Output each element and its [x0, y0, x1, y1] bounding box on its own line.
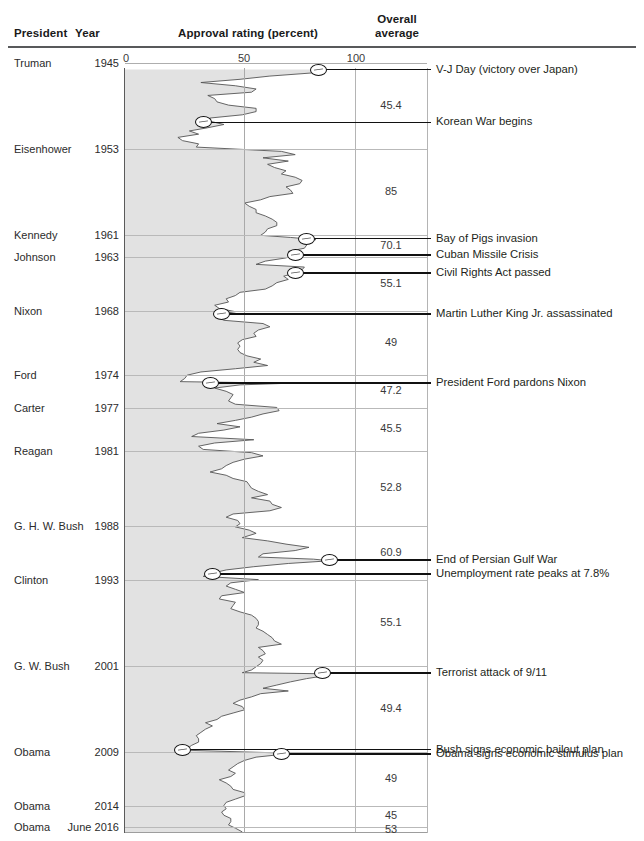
row-separator — [125, 63, 427, 64]
year-label: 1981 — [44, 445, 119, 457]
column-header-approval-rating: Approval rating (percent) — [178, 27, 318, 39]
average-column-right-border — [427, 68, 428, 833]
column-header-overall-average: Overall average — [366, 12, 428, 40]
overall-average-line1: Overall — [377, 13, 417, 25]
overall-average-value: 49.4 — [355, 702, 427, 714]
annotation-marker[interactable] — [287, 249, 304, 261]
year-label: 1945 — [44, 57, 119, 69]
overall-average-value: 47.2 — [355, 384, 427, 396]
annotation-leader-line — [295, 254, 431, 256]
overall-average-value: 45 — [355, 809, 427, 821]
annotation-marker[interactable] — [298, 233, 315, 245]
annotation-leader-line — [323, 672, 431, 674]
year-label: 2014 — [44, 800, 119, 812]
annotation-leader-line — [203, 122, 431, 124]
annotation-label: Bay of Pigs invasion — [436, 232, 538, 244]
annotation-label: Martin Luther King Jr. assassinated — [436, 307, 612, 319]
year-label: 1963 — [44, 251, 119, 263]
annotation-label: Terrorist attack of 9/11 — [436, 666, 547, 678]
annotation-label: Civil Rights Act passed — [436, 266, 551, 278]
president-label: Nixon — [14, 305, 42, 317]
year-label: 1988 — [44, 520, 119, 532]
annotation-leader-line — [222, 313, 431, 315]
annotation-leader-line — [212, 573, 431, 575]
year-label: 1953 — [44, 143, 119, 155]
annotation-label: Unemployment rate peaks at 7.8% — [436, 567, 609, 579]
annotation-label: End of Persian Gulf War — [436, 553, 557, 565]
overall-average-value: 49 — [355, 772, 427, 784]
header-divider — [8, 46, 636, 48]
year-label: 1968 — [44, 305, 119, 317]
annotation-label: Korean War begins — [436, 115, 532, 127]
year-label: 1977 — [44, 402, 119, 414]
annotation-label: Obama signs economic stimulus plan — [436, 747, 623, 759]
overall-average-value: 49 — [355, 336, 427, 348]
year-label: 1974 — [44, 369, 119, 381]
annotation-marker[interactable] — [213, 308, 230, 320]
axis-tick-50: 50 — [229, 52, 259, 64]
year-label: 2009 — [44, 746, 119, 758]
annotation-marker[interactable] — [195, 116, 212, 128]
overall-average-value: 60.9 — [355, 546, 427, 558]
approval-rating-chart: President Year Approval rating (percent)… — [0, 0, 644, 841]
annotation-label: President Ford pardons Nixon — [436, 376, 586, 388]
overall-average-line2: average — [375, 27, 419, 39]
year-label: 1961 — [44, 229, 119, 241]
annotation-leader-line — [330, 559, 431, 561]
column-header-president: President — [14, 27, 67, 39]
annotation-leader-line — [295, 272, 431, 274]
year-label: June 2016 — [44, 821, 119, 833]
annotation-marker[interactable] — [202, 377, 219, 389]
overall-average-value: 85 — [355, 185, 427, 197]
annotation-marker[interactable] — [287, 267, 304, 279]
annotation-label: Cuban Missile Crisis — [436, 248, 538, 260]
annotation-leader-line — [281, 753, 431, 755]
annotation-marker[interactable] — [273, 748, 290, 760]
year-label: 2001 — [44, 660, 119, 672]
overall-average-value: 55.1 — [355, 277, 427, 289]
year-label: 1993 — [44, 574, 119, 586]
overall-average-value: 45.4 — [355, 99, 427, 111]
overall-average-column — [355, 68, 427, 833]
overall-average-value: 55.1 — [355, 616, 427, 628]
overall-average-value: 45.5 — [355, 422, 427, 434]
annotation-leader-line — [318, 69, 431, 71]
column-header-year: Year — [75, 27, 100, 39]
president-label: Carter — [14, 402, 45, 414]
overall-average-value: 53 — [355, 823, 427, 835]
president-label: Ford — [14, 369, 37, 381]
annotation-leader-line — [183, 749, 432, 751]
annotation-marker[interactable] — [310, 64, 327, 76]
axis-tick-100: 100 — [341, 52, 371, 64]
overall-average-value: 52.8 — [355, 481, 427, 493]
overall-average-value: 70.1 — [355, 239, 427, 251]
annotation-marker[interactable] — [174, 744, 191, 756]
annotation-label: V-J Day (victory over Japan) — [436, 63, 578, 75]
